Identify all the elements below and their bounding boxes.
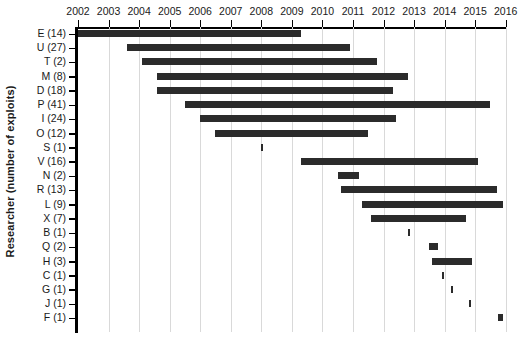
- y-axis-tick: [69, 90, 75, 92]
- gridline: [475, 27, 476, 332]
- y-axis-tick: [69, 247, 75, 249]
- x-axis-tick: [353, 20, 354, 27]
- y-axis-tick: [69, 119, 75, 121]
- y-axis-tick-label: B (1): [0, 227, 66, 238]
- y-axis-tick-label: V (16): [0, 156, 66, 167]
- y-axis-tick-label: N (2): [0, 170, 66, 181]
- y-axis-tick: [69, 176, 75, 178]
- y-axis-tick: [69, 105, 75, 107]
- gridline: [445, 27, 446, 332]
- gantt-bar: [338, 172, 359, 179]
- x-axis-tick: [384, 20, 385, 27]
- y-axis-tick-label: S (1): [0, 142, 66, 153]
- x-axis-tick: [414, 20, 415, 27]
- y-axis-tick-label: G (1): [0, 284, 66, 295]
- y-axis-tick: [69, 76, 75, 78]
- gantt-bar: [362, 201, 503, 208]
- gantt-bar: [127, 44, 350, 51]
- y-axis-tick-label: F (1): [0, 312, 66, 323]
- x-axis-tick: [261, 20, 262, 27]
- x-axis-tick: [170, 20, 171, 27]
- x-axis-tick: [506, 20, 507, 27]
- x-axis-tick: [445, 20, 446, 27]
- gantt-bar: [498, 314, 503, 321]
- y-axis-tick: [69, 190, 75, 192]
- gantt-bar: [469, 300, 471, 307]
- x-axis-tick: [78, 20, 79, 27]
- gantt-bar: [261, 144, 263, 151]
- x-axis-tick: [109, 20, 110, 27]
- gantt-bar: [78, 30, 301, 37]
- x-axis-tick: [200, 20, 201, 27]
- y-axis-tick-label: L (9): [0, 199, 66, 210]
- x-axis-tick: [231, 20, 232, 27]
- gridline: [109, 27, 110, 332]
- y-axis-tick: [69, 62, 75, 64]
- y-axis-tick: [69, 304, 75, 306]
- gantt-bar: [432, 258, 472, 265]
- y-axis-tick: [69, 275, 75, 277]
- y-axis-tick-label: E (14): [0, 28, 66, 39]
- y-axis-tick: [69, 147, 75, 149]
- y-axis-tick: [69, 133, 75, 135]
- gantt-bar: [157, 73, 408, 80]
- y-axis-tick: [69, 161, 75, 163]
- gantt-bar: [442, 272, 444, 279]
- gantt-bar: [429, 243, 438, 250]
- y-axis-tick: [69, 48, 75, 50]
- gantt-bar: [408, 229, 410, 236]
- y-axis-tick-label: D (18): [0, 85, 66, 96]
- gantt-bar: [301, 158, 478, 165]
- y-axis-tick: [69, 34, 75, 36]
- gantt-bar: [142, 58, 377, 65]
- y-axis-tick: [69, 318, 75, 320]
- gridline: [139, 27, 140, 332]
- gridline: [414, 27, 415, 332]
- y-axis-tick-label: I (24): [0, 113, 66, 124]
- y-axis-tick: [69, 218, 75, 220]
- y-axis-tick-label: R (13): [0, 184, 66, 195]
- y-axis-tick: [69, 233, 75, 235]
- gantt-bar: [200, 115, 396, 122]
- gantt-bar: [215, 130, 368, 137]
- y-axis-tick-label: C (1): [0, 270, 66, 281]
- y-axis-tick-label: M (8): [0, 71, 66, 82]
- y-axis-tick-label: T (2): [0, 56, 66, 67]
- y-axis-tick: [69, 261, 75, 263]
- y-axis-tick-label: P (41): [0, 99, 66, 110]
- y-axis-tick: [69, 289, 75, 291]
- gantt-bar: [341, 186, 497, 193]
- x-axis-tick: [475, 20, 476, 27]
- gantt-bar: [371, 215, 466, 222]
- y-axis-tick-label: U (27): [0, 42, 66, 53]
- gridline: [506, 27, 507, 332]
- gantt-bar: [185, 101, 491, 108]
- y-axis-tick-label: H (3): [0, 256, 66, 267]
- x-axis-tick: [139, 20, 140, 27]
- x-axis-tick: [292, 20, 293, 27]
- x-axis-tick-label: 2016: [486, 5, 524, 18]
- gantt-chart: Researcher (number of exploits) 20022003…: [0, 0, 524, 343]
- gantt-bar: [451, 286, 453, 293]
- y-axis-tick: [69, 204, 75, 206]
- y-axis-tick-label: Q (2): [0, 241, 66, 252]
- y-axis-tick-label: X (7): [0, 213, 66, 224]
- x-axis-tick: [322, 20, 323, 27]
- plot-area: [78, 27, 506, 332]
- y-axis-tick-label: O (12): [0, 128, 66, 139]
- y-axis-tick-label: J (1): [0, 298, 66, 309]
- gantt-bar: [157, 87, 392, 94]
